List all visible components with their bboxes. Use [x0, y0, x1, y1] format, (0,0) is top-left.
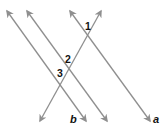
line-b-label: b: [70, 114, 77, 125]
line-b: [7, 11, 86, 121]
line-middle: [27, 11, 107, 121]
line-a: [70, 11, 150, 121]
diagram-svg: [0, 0, 160, 127]
transversal-line: [40, 11, 101, 121]
line-a-label: a: [153, 114, 159, 125]
angle-2-label: 2: [65, 54, 71, 65]
parallel-lines-diagram: 1 2 3 b a: [0, 0, 160, 127]
angle-3-label: 3: [57, 68, 63, 79]
angle-1-label: 1: [85, 21, 91, 32]
